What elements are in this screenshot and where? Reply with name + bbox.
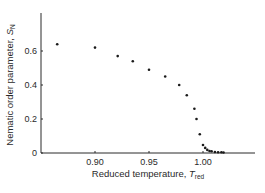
chart: 0.900.951.00 00.20.40.6 Reduced temperat…: [0, 0, 265, 193]
data-point: [204, 147, 207, 150]
x-tick-label: 0.95: [140, 157, 158, 167]
data-points: [56, 43, 225, 154]
data-point: [132, 60, 135, 63]
data-point: [206, 149, 209, 152]
data-point: [193, 108, 196, 111]
data-point: [94, 46, 97, 49]
y-tick-label: 0.4: [24, 80, 37, 90]
y-axis-ticks: 00.20.40.6: [24, 46, 43, 158]
data-point: [186, 94, 189, 97]
y-tick-label: 0.2: [24, 114, 37, 124]
y-tick-label: 0.6: [24, 46, 37, 56]
data-point: [214, 151, 217, 154]
data-point: [116, 55, 119, 58]
data-point: [195, 118, 198, 121]
data-point: [222, 151, 225, 154]
data-point: [148, 68, 151, 71]
y-axis-title: Nematic order parameter, SN: [4, 24, 16, 146]
axes: [41, 13, 255, 153]
y-tick-label: 0: [32, 148, 37, 158]
data-point: [217, 151, 220, 154]
data-point: [202, 144, 205, 147]
x-tick-label: 0.90: [86, 157, 104, 167]
data-point: [210, 150, 213, 153]
data-point: [56, 43, 59, 46]
x-tick-label: 1.00: [194, 157, 212, 167]
data-point: [178, 84, 181, 87]
x-axis-title: Reduced temperature, Tred: [92, 168, 205, 180]
data-point: [199, 133, 202, 136]
data-point: [164, 75, 167, 78]
